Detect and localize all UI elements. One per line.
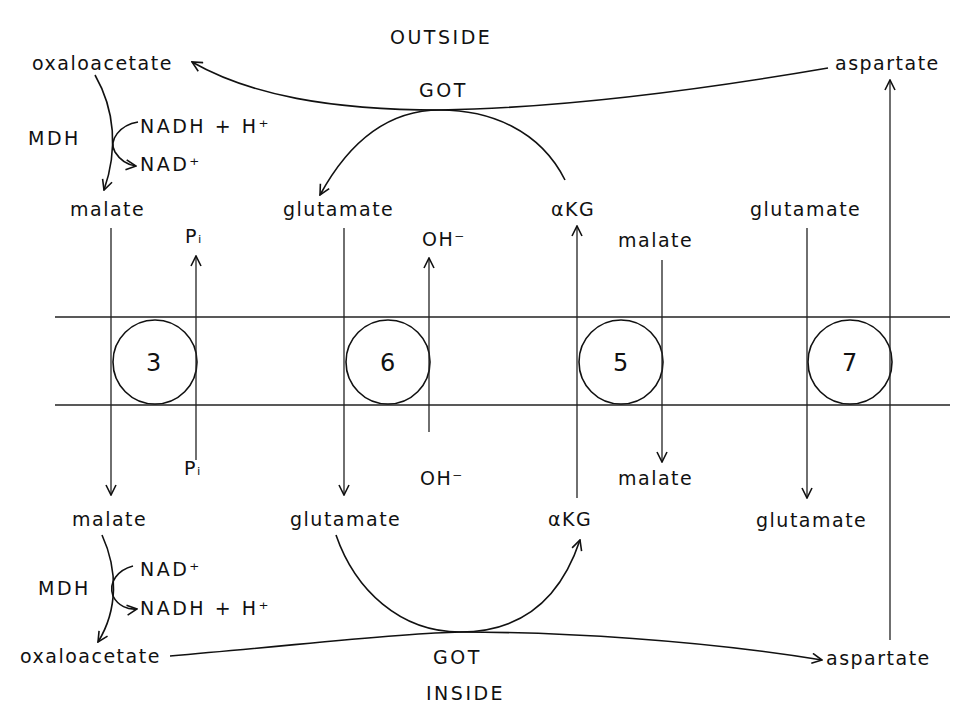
mdh-outside-label: MDH (28, 127, 81, 149)
glutamate-inside-label: glutamate (290, 508, 401, 530)
transporter-6: 6 (346, 320, 430, 404)
oxaloacetate-inside-label: oxaloacetate (20, 645, 161, 667)
oh-outside-label: OH⁻ (422, 228, 466, 250)
aspartate-inside-label: aspartate (826, 647, 931, 669)
malate-inside-label: malate (72, 508, 147, 530)
got-inside-oaa-to-aspartate-arrow (170, 632, 822, 660)
glutamate-7-inside-label: glutamate (756, 509, 867, 531)
inside-region-label: INSIDE (426, 682, 505, 704)
transporter-5-label: 5 (613, 349, 628, 377)
nadh-h-inside-label: NADH + H⁺ (140, 597, 271, 619)
transporter-3-label: 3 (146, 349, 161, 377)
pi-outside-label: Pᵢ (185, 225, 203, 247)
transporter-5: 5 (579, 320, 663, 404)
got-outside-aspartate-to-oxaloacetate-arrow (192, 62, 828, 110)
mdh-inside-label: MDH (38, 577, 91, 599)
transporter-7-label: 7 (842, 349, 857, 377)
transporter-6-label: 6 (380, 349, 395, 377)
nadh-h-outside-label: NADH + H⁺ (140, 115, 271, 137)
malate-outside-label: malate (70, 198, 145, 220)
malate-5-inside-label: malate (618, 467, 693, 489)
mdh-inside-cofactor-arrow (112, 566, 137, 609)
got-inside-glutamate-to-akg-arc (336, 535, 580, 632)
akg-outside-label: αKG (551, 198, 595, 220)
got-inside-label: GOT (433, 646, 482, 668)
oh-inside-label: OH⁻ (420, 467, 464, 489)
nad-inside-label: NAD⁺ (140, 558, 202, 580)
malate-aspartate-shuttle-diagram: OUTSIDE INSIDE oxaloacetate aspartate GO… (0, 0, 978, 724)
malate-5-outside-label: malate (618, 229, 693, 251)
aspartate-outside-label: aspartate (835, 52, 940, 74)
outside-region-label: OUTSIDE (390, 26, 492, 48)
mdh-outside-oaa-to-malate-arrow (95, 75, 113, 190)
pi-inside-label: Pᵢ (184, 457, 202, 479)
glutamate-outside-label: glutamate (283, 198, 394, 220)
transporter-3: 3 (113, 320, 197, 404)
glutamate-7-outside-label: glutamate (750, 198, 861, 220)
nad-outside-label: NAD⁺ (140, 153, 202, 175)
akg-inside-label: αKG (548, 508, 592, 530)
transporter-7: 7 (808, 320, 892, 404)
got-outside-akg-glutamate-arc (320, 110, 565, 195)
oxaloacetate-outside-label: oxaloacetate (32, 52, 173, 74)
mdh-outside-cofactor-arrow (113, 122, 138, 166)
got-outside-label: GOT (419, 79, 468, 101)
